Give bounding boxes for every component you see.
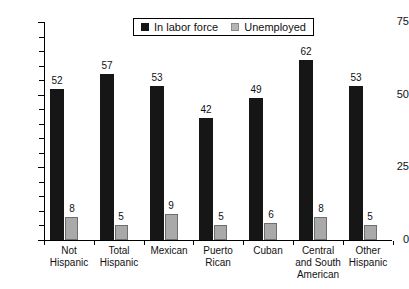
bar-value-in-labor-force: 53 xyxy=(343,73,369,83)
bar-value-in-labor-force: 53 xyxy=(144,73,170,83)
bar-value-unemployed: 8 xyxy=(59,204,85,214)
legend-label-unemployed: Unemployed xyxy=(244,22,306,33)
bar-value-unemployed: 5 xyxy=(108,212,134,222)
bar-value-in-labor-force: 62 xyxy=(293,47,319,57)
plot-area: 528575539425496628535 xyxy=(0,0,409,241)
bar-unemployed xyxy=(314,217,327,240)
bar-unemployed xyxy=(214,225,227,240)
x-category-label: OtherHispanic xyxy=(336,245,400,269)
x-category-label-line: Hispanic xyxy=(87,257,151,269)
bar-in-labor-force xyxy=(50,89,64,240)
bar-unemployed xyxy=(364,225,377,240)
bar-value-in-labor-force: 52 xyxy=(44,76,70,86)
bar-in-labor-force xyxy=(150,86,164,240)
bar-value-unemployed: 9 xyxy=(158,201,184,211)
x-category-label-line: American xyxy=(286,269,350,281)
bar-unemployed xyxy=(264,223,277,240)
bar-value-in-labor-force: 49 xyxy=(243,85,269,95)
x-category-label-line: Hispanic xyxy=(336,257,400,269)
bar-value-unemployed: 6 xyxy=(258,210,284,220)
legend-swatch-icon-unemployed xyxy=(231,23,239,31)
bar-value-unemployed: 5 xyxy=(208,212,234,222)
x-category-label-line: Other xyxy=(336,245,400,257)
bar-value-in-labor-force: 42 xyxy=(193,105,219,115)
bar-unemployed xyxy=(165,214,178,240)
bar-value-in-labor-force: 57 xyxy=(94,61,120,71)
bar-unemployed xyxy=(65,217,78,240)
bar-value-unemployed: 8 xyxy=(308,204,334,214)
legend-label-in-labor-force: In labor force xyxy=(154,22,218,33)
bar-chart: 0255075 528575539425496628535 NotHispani… xyxy=(0,0,409,289)
bar-unemployed xyxy=(115,225,128,240)
bar-value-unemployed: 5 xyxy=(357,212,383,222)
x-category-label-line: Rican xyxy=(186,257,250,269)
chart-legend: In labor force Unemployed xyxy=(133,18,314,36)
legend-swatch-icon-in-labor-force xyxy=(141,23,149,31)
legend-item-in-labor-force[interactable]: In labor force xyxy=(141,22,218,33)
legend-item-unemployed[interactable]: Unemployed xyxy=(231,22,306,33)
